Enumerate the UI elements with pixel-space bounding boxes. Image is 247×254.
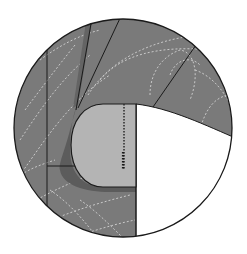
detail-illustration	[0, 0, 247, 254]
diagram-canvas	[0, 0, 247, 254]
pocket-piece	[71, 104, 136, 187]
